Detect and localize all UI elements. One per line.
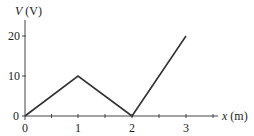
- y-axis-label: V(V): [15, 4, 42, 18]
- x-tick-label: 1: [75, 121, 81, 135]
- x-axis-var: x: [221, 109, 228, 123]
- x-tick-label: 2: [129, 121, 135, 135]
- y-tick-label: 10: [8, 69, 20, 83]
- x-axis-label: x(m): [221, 109, 248, 123]
- chart: 0 10 20 0 1 2 3 V(V) x(m): [0, 0, 254, 136]
- x-tick-label: 0: [22, 121, 28, 135]
- y-tick-label: 0: [13, 109, 19, 123]
- y-axis-var: V: [15, 4, 24, 18]
- data-line: [25, 36, 186, 116]
- y-tick-label: 20: [8, 29, 20, 43]
- y-axis-unit: (V): [25, 4, 42, 18]
- x-axis-unit: (m): [230, 109, 247, 123]
- x-tick-label: 3: [183, 121, 189, 135]
